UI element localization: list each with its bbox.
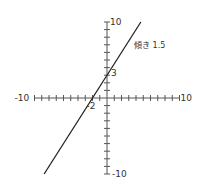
x-intercept-label: -2	[87, 101, 96, 111]
x-axis-max-label: 10	[181, 93, 193, 103]
slope-annotation: 傾き 1.5	[134, 41, 165, 50]
x-axis-min-label: -10	[15, 93, 30, 103]
y-axis-min-label: -10	[112, 169, 127, 179]
y-intercept-label: 3	[111, 68, 117, 78]
coordinate-plane: -10 10 10 -10 傾き 1.5 3 -2	[0, 0, 207, 187]
y-axis-max-label: 10	[110, 17, 122, 27]
